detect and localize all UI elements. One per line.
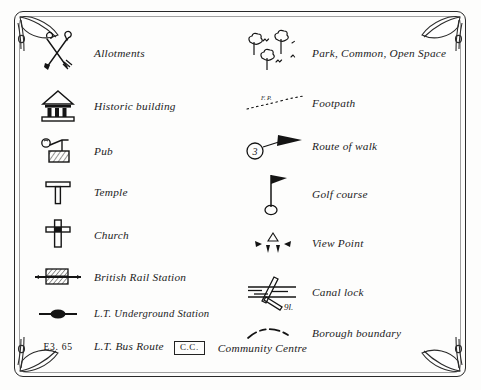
borough-boundary-icon [240,323,312,343]
legend-label: Historic building [94,100,176,112]
legend-label: Community Centre [218,342,307,354]
canal-lock-icon: 9l. [240,271,312,313]
legend-label: L.T. Underground Station [94,308,209,320]
legend-row-view-point: View Point [240,220,468,266]
legend-row-british-rail: British Rail Station [22,257,237,297]
tau-temple-icon [22,177,94,209]
dotted-footpath-icon: F. P. [240,92,312,114]
underground-station-icon [22,305,94,323]
legend-row-church: Church [22,213,237,257]
legend-row-golf-course: Golf course [240,168,468,220]
legend-label: Footpath [312,97,355,109]
view-point-icon [240,229,312,257]
british-rail-station-icon [22,265,94,289]
golf-flag-icon [240,171,312,217]
legend-label: Golf course [312,188,368,200]
legend-row-footpath: F. P. Footpath [240,82,468,124]
legend-row-community-centre: C.C. Community Centre [0,341,481,355]
legend-label: Canal lock [312,286,364,298]
canal-lock-annotation-text: 9l. [284,302,293,312]
beer-pump-icon [22,134,94,168]
legend-row-historic-building: Historic building [22,82,237,130]
legend-row-park: Park, Common, Open Space [240,24,468,82]
legend-row-underground: L.T. Underground Station [22,297,237,331]
legend-label: View Point [312,237,364,249]
trees-park-icon [240,30,312,76]
legend-row-allotments: Allotments [22,24,237,82]
route-number-text: 3 [252,146,258,157]
legend-label: Pub [94,145,113,157]
legend-label: Park, Common, Open Space [312,47,446,59]
cross-church-icon [22,217,94,253]
legend-column-right: Park, Common, Open Space F. P. Footpath … [240,24,468,348]
legend-row-canal-lock: 9l. Canal lock [240,266,468,318]
crossed-spade-fork-icon [22,31,94,75]
route-arrow-icon: 3 [240,132,312,160]
legend-label: Church [94,229,129,241]
legend-label: Route of walk [312,140,377,152]
classical-building-icon [22,88,94,124]
legend-label: Allotments [94,47,145,59]
svg-text:F. P.: F. P. [260,94,272,101]
map-legend-panel: Allotments Historic building [0,0,481,390]
legend-label: Borough boundary [312,327,401,339]
legend-row-pub: Pub [22,130,237,172]
legend-label: British Rail Station [94,271,186,283]
community-centre-box-icon: C.C. [174,341,205,355]
legend-column-left: Allotments Historic building [22,24,237,361]
legend-label: Temple [94,186,128,198]
legend-row-temple: Temple [22,172,237,213]
legend-row-route-of-walk: 3 Route of walk [240,124,468,168]
